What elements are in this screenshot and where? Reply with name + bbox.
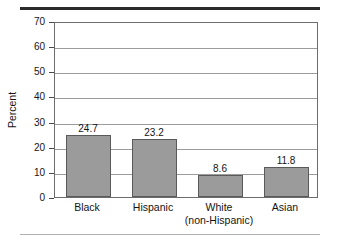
y-tick-label: 60 bbox=[34, 42, 45, 52]
plot-area: 24.723.28.611.8 bbox=[54, 22, 318, 198]
y-tick-label: 50 bbox=[34, 67, 45, 77]
bottom-divider-rule bbox=[20, 234, 320, 235]
bar-series: 24.723.28.611.8 bbox=[55, 23, 317, 197]
y-tick-label: 30 bbox=[34, 118, 45, 128]
bar-value-label: 24.7 bbox=[58, 124, 118, 134]
y-tick-label: 20 bbox=[34, 143, 45, 153]
y-tick-label: 40 bbox=[34, 92, 45, 102]
x-axis-labels: BlackHispanicWhite (non-Hispanic)Asian bbox=[54, 201, 318, 241]
x-axis-label: Asian bbox=[240, 201, 330, 214]
bar[interactable] bbox=[264, 167, 309, 197]
bar-value-label: 11.8 bbox=[256, 156, 316, 166]
y-tick-mark bbox=[49, 198, 54, 199]
chart-figure: Percent 010203040506070 24.723.28.611.8 … bbox=[0, 0, 340, 251]
bar-value-label: 8.6 bbox=[190, 164, 250, 174]
y-tick-label: 10 bbox=[34, 168, 45, 178]
bar[interactable] bbox=[66, 135, 111, 197]
y-axis-title: Percent bbox=[7, 92, 18, 128]
y-axis: Percent 010203040506070 bbox=[0, 22, 54, 198]
top-divider-rule bbox=[20, 7, 320, 10]
y-tick-label: 70 bbox=[34, 17, 45, 27]
bar-value-label: 23.2 bbox=[124, 128, 184, 138]
bar[interactable] bbox=[198, 175, 243, 197]
bar[interactable] bbox=[132, 139, 177, 197]
